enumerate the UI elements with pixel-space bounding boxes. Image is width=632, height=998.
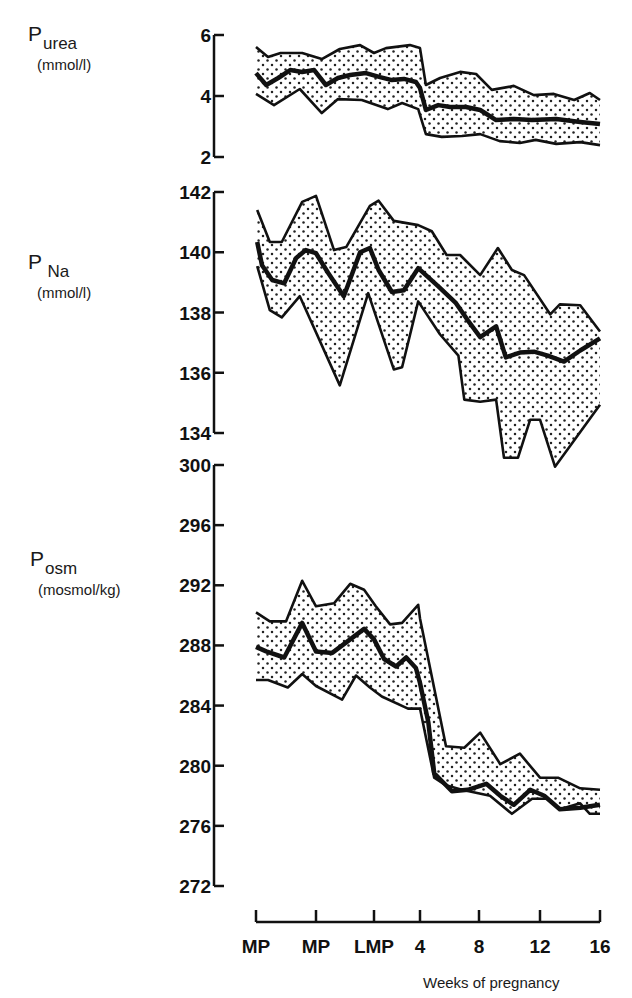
y-tick-label: 272 [179, 876, 211, 897]
y-axis-panel-0: 642 [200, 25, 224, 168]
band-panel-2 [256, 581, 600, 814]
osm-unit: (mosmol/kg) [38, 581, 121, 598]
x-tick-label: MP [242, 936, 271, 957]
y-tick-label: 142 [179, 182, 211, 203]
y-tick-label: 140 [179, 242, 211, 263]
x-tick-label: MP [302, 936, 331, 957]
y-tick-label: 288 [179, 635, 211, 656]
urea-panel-label: Purea (mmol/l) [28, 22, 91, 73]
y-tick-label: 284 [179, 696, 211, 717]
x-tick-label: 4 [415, 936, 426, 957]
x-tick-label: 8 [474, 936, 485, 957]
y-tick-label: 280 [179, 756, 211, 777]
x-axis-title: Weeks of pregnancy [423, 974, 559, 991]
na-label-main: P [28, 250, 42, 273]
na-label-sub: Na [47, 262, 69, 281]
urea-label-main: P [28, 22, 42, 45]
y-tick-label: 296 [179, 515, 211, 536]
chart-canvas: 6421421401381361343002962922882842802762… [0, 0, 632, 998]
x-tick-label: LMP [354, 936, 394, 957]
osm-panel-label: Posm (mosmol/kg) [30, 547, 121, 598]
y-tick-label: 138 [179, 303, 211, 324]
urea-unit: (mmol/l) [37, 56, 91, 73]
urea-label-sub: urea [43, 34, 77, 53]
x-axis: MPMPLMP481216 [242, 910, 611, 957]
y-tick-label: 300 [179, 455, 211, 476]
y-tick-label: 292 [179, 575, 211, 596]
y-tick-label: 136 [179, 363, 211, 384]
band-panel-1 [257, 196, 600, 467]
y-tick-label: 6 [200, 25, 211, 46]
osm-label-main: P [30, 547, 44, 570]
x-tick-label: 12 [529, 936, 550, 957]
na-panel-label: P Na (mmol/l) [28, 250, 91, 301]
y-tick-label: 2 [200, 147, 211, 168]
y-tick-label: 4 [200, 86, 211, 107]
osm-label-sub: osm [45, 559, 77, 578]
y-axis-panel-1: 142140138136134 [179, 182, 224, 444]
y-tick-label: 276 [179, 816, 211, 837]
x-tick-label: 16 [589, 936, 610, 957]
bands-layer [256, 45, 600, 814]
band-panel-0 [256, 45, 600, 145]
axes-layer: 6421421401381361343002962922882842802762… [179, 25, 610, 957]
na-unit: (mmol/l) [37, 284, 91, 301]
y-tick-label: 134 [179, 423, 211, 444]
y-axis-panel-2: 300296292288284280276272 [179, 455, 224, 897]
